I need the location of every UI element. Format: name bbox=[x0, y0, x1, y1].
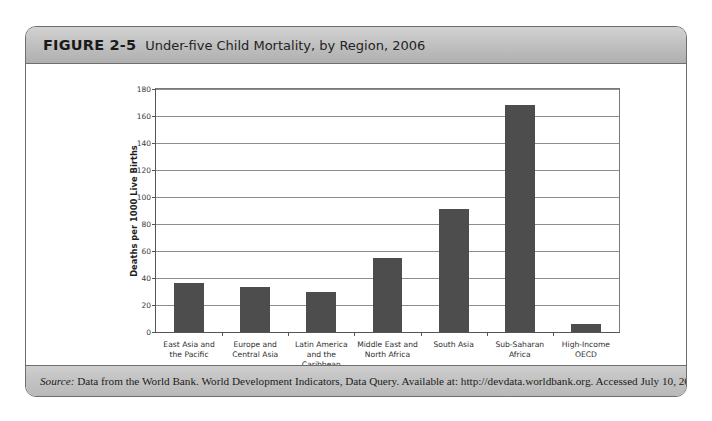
gridline bbox=[156, 89, 619, 90]
source-body-text: Data from the World Bank. World Developm… bbox=[74, 375, 687, 387]
source-note: Source: Data from the World Bank. World … bbox=[40, 375, 687, 387]
y-axis-tick-label: 60 bbox=[141, 247, 151, 256]
y-axis-tick-label: 120 bbox=[137, 166, 151, 175]
bar bbox=[240, 287, 270, 332]
y-axis-tick-mark bbox=[152, 305, 156, 306]
bar bbox=[505, 105, 535, 332]
y-axis-tick-label: 160 bbox=[137, 112, 151, 121]
x-axis-category-label: High-Income OECD bbox=[547, 340, 625, 360]
y-axis-title-text: Deaths per 1000 Live Births bbox=[129, 145, 139, 277]
figure-source-footer: Source: Data from the World Bank. World … bbox=[26, 365, 686, 396]
y-axis-tick-mark bbox=[152, 224, 156, 225]
bar bbox=[439, 209, 469, 332]
y-axis-title: Deaths per 1000 Live Births bbox=[127, 88, 141, 333]
plot-area: 020406080100120140160180East Asia and th… bbox=[155, 88, 620, 333]
y-axis-tick-label: 0 bbox=[146, 328, 151, 337]
y-axis-tick-mark bbox=[152, 251, 156, 252]
gridline bbox=[156, 251, 619, 252]
bar bbox=[306, 292, 336, 333]
x-axis-tick-mark bbox=[421, 332, 422, 336]
bar bbox=[571, 324, 601, 332]
y-axis-tick-mark bbox=[152, 143, 156, 144]
y-axis-tick-label: 20 bbox=[141, 301, 151, 310]
y-axis-tick-mark bbox=[152, 170, 156, 171]
chart-body: Deaths per 1000 Live Births 020406080100… bbox=[26, 64, 686, 365]
figure-title: Under-five Child Mortality, by Region, 2… bbox=[145, 38, 425, 53]
y-axis-tick-mark bbox=[152, 197, 156, 198]
y-axis-tick-label: 100 bbox=[137, 193, 151, 202]
y-axis-tick-mark bbox=[152, 278, 156, 279]
bar bbox=[373, 258, 403, 332]
gridline bbox=[156, 170, 619, 171]
y-axis-tick-label: 140 bbox=[137, 139, 151, 148]
bar bbox=[174, 283, 204, 332]
y-axis-tick-label: 40 bbox=[141, 274, 151, 283]
figure-container: FIGURE 2-5 Under-five Child Mortality, b… bbox=[25, 26, 687, 397]
gridline bbox=[156, 224, 619, 225]
y-axis-tick-mark bbox=[152, 116, 156, 117]
gridline bbox=[156, 116, 619, 117]
y-axis-tick-mark bbox=[152, 332, 156, 333]
x-axis-tick-mark bbox=[354, 332, 355, 336]
x-axis-tick-mark bbox=[222, 332, 223, 336]
x-axis-tick-mark bbox=[487, 332, 488, 336]
x-axis-tick-mark bbox=[553, 332, 554, 336]
y-axis-tick-label: 180 bbox=[137, 85, 151, 94]
figure-number-label: FIGURE 2-5 bbox=[43, 37, 136, 53]
x-axis-tick-mark bbox=[288, 332, 289, 336]
figure-header: FIGURE 2-5 Under-five Child Mortality, b… bbox=[26, 27, 686, 64]
y-axis-tick-label: 80 bbox=[141, 220, 151, 229]
gridline bbox=[156, 197, 619, 198]
source-lead-label: Source: bbox=[40, 375, 74, 387]
gridline bbox=[156, 143, 619, 144]
y-axis-tick-mark bbox=[152, 89, 156, 90]
